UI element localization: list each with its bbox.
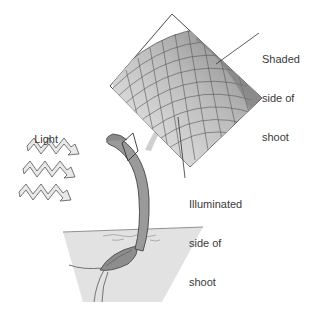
inset-magnified-cells <box>110 14 262 167</box>
soil <box>63 227 203 302</box>
light-ray-icon <box>19 184 71 201</box>
light-rays <box>19 138 79 201</box>
illuminated-side-label: Illuminated side of shoot <box>189 172 242 302</box>
light-label: Light <box>28 120 58 146</box>
shaded-side-label: Shaded side of shoot <box>262 27 300 157</box>
light-ray-icon <box>23 161 75 178</box>
